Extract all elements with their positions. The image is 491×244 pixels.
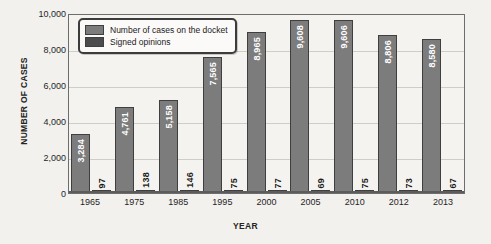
bar-value-label: 69 (312, 178, 329, 188)
legend-item-docket: Number of cases on the docket (85, 24, 228, 35)
bar-value-label: 8,806 (379, 40, 396, 64)
bar-value-label: 138 (137, 172, 154, 188)
x-tick-label: 1985 (156, 197, 200, 211)
bar-value-label: 5,158 (160, 105, 177, 129)
bar-group: 9,60869 (288, 15, 332, 193)
legend-label-docket: Number of cases on the docket (110, 25, 228, 35)
bar-chart: NUMBER OF CASES 02,0004,0006,0008,00010,… (0, 0, 491, 244)
x-axis-title: YEAR (0, 221, 491, 231)
x-tick-label: 2010 (333, 197, 377, 211)
x-tick-label: 1995 (200, 197, 244, 211)
bar-value-label: 75 (356, 178, 373, 188)
bar-group: 9,60675 (332, 15, 376, 193)
x-tick-label: 2013 (421, 197, 465, 211)
bar-group: 8,80673 (376, 15, 420, 193)
bar-value-label: 146 (181, 172, 198, 188)
bar-docket-cases: 5,158 (159, 100, 178, 193)
axis-baseline (69, 191, 464, 193)
bar-docket-cases: 9,608 (290, 20, 309, 193)
bar-value-label: 8,965 (248, 37, 265, 61)
legend-swatch-signed-opinions (85, 37, 104, 47)
y-axis-tick-labels: 02,0004,0006,0008,00010,000 (24, 10, 66, 194)
x-tick-label: 2000 (244, 197, 288, 211)
bar-value-label: 75 (225, 178, 242, 188)
bar-value-label: 4,761 (116, 112, 133, 136)
y-tick-label: 4,000 (24, 117, 66, 127)
y-tick-label: 10,000 (24, 9, 66, 19)
legend-swatch-docket (85, 25, 104, 35)
chart-legend: Number of cases on the docket Signed opi… (78, 18, 237, 54)
y-tick-label: 0 (24, 189, 66, 199)
y-tick-label: 6,000 (24, 81, 66, 91)
bar-docket-cases: 4,761 (115, 107, 134, 193)
legend-item-signed-opinions: Signed opinions (85, 36, 228, 47)
bar-value-label: 97 (93, 178, 110, 188)
bar-group: 8,96577 (245, 15, 289, 193)
bar-docket-cases: 8,965 (247, 32, 266, 193)
bar-group: 8,58067 (420, 15, 464, 193)
bar-value-label: 3,284 (72, 139, 89, 163)
x-axis-tick-labels: 196519751985199520002005201020122013 (68, 197, 465, 211)
x-tick-label: 1965 (68, 197, 112, 211)
x-tick-label: 2012 (377, 197, 421, 211)
y-tick-label: 8,000 (24, 45, 66, 55)
bar-docket-cases: 9,606 (334, 20, 353, 193)
x-tick-label: 2005 (289, 197, 333, 211)
bar-value-label: 9,606 (335, 25, 352, 49)
y-tick-label: 2,000 (24, 153, 66, 163)
bar-value-label: 67 (444, 178, 461, 188)
bar-value-label: 73 (400, 178, 417, 188)
bar-value-label: 8,580 (423, 44, 440, 68)
bar-docket-cases: 3,284 (71, 134, 90, 193)
bar-docket-cases: 8,806 (378, 35, 397, 194)
legend-label-signed-opinions: Signed opinions (110, 37, 171, 47)
bar-value-label: 77 (269, 178, 286, 188)
bar-value-label: 9,608 (291, 25, 308, 49)
bar-value-label: 7,565 (204, 62, 221, 86)
bar-docket-cases: 7,565 (203, 57, 222, 193)
bar-docket-cases: 8,580 (422, 39, 441, 193)
x-tick-label: 1975 (112, 197, 156, 211)
